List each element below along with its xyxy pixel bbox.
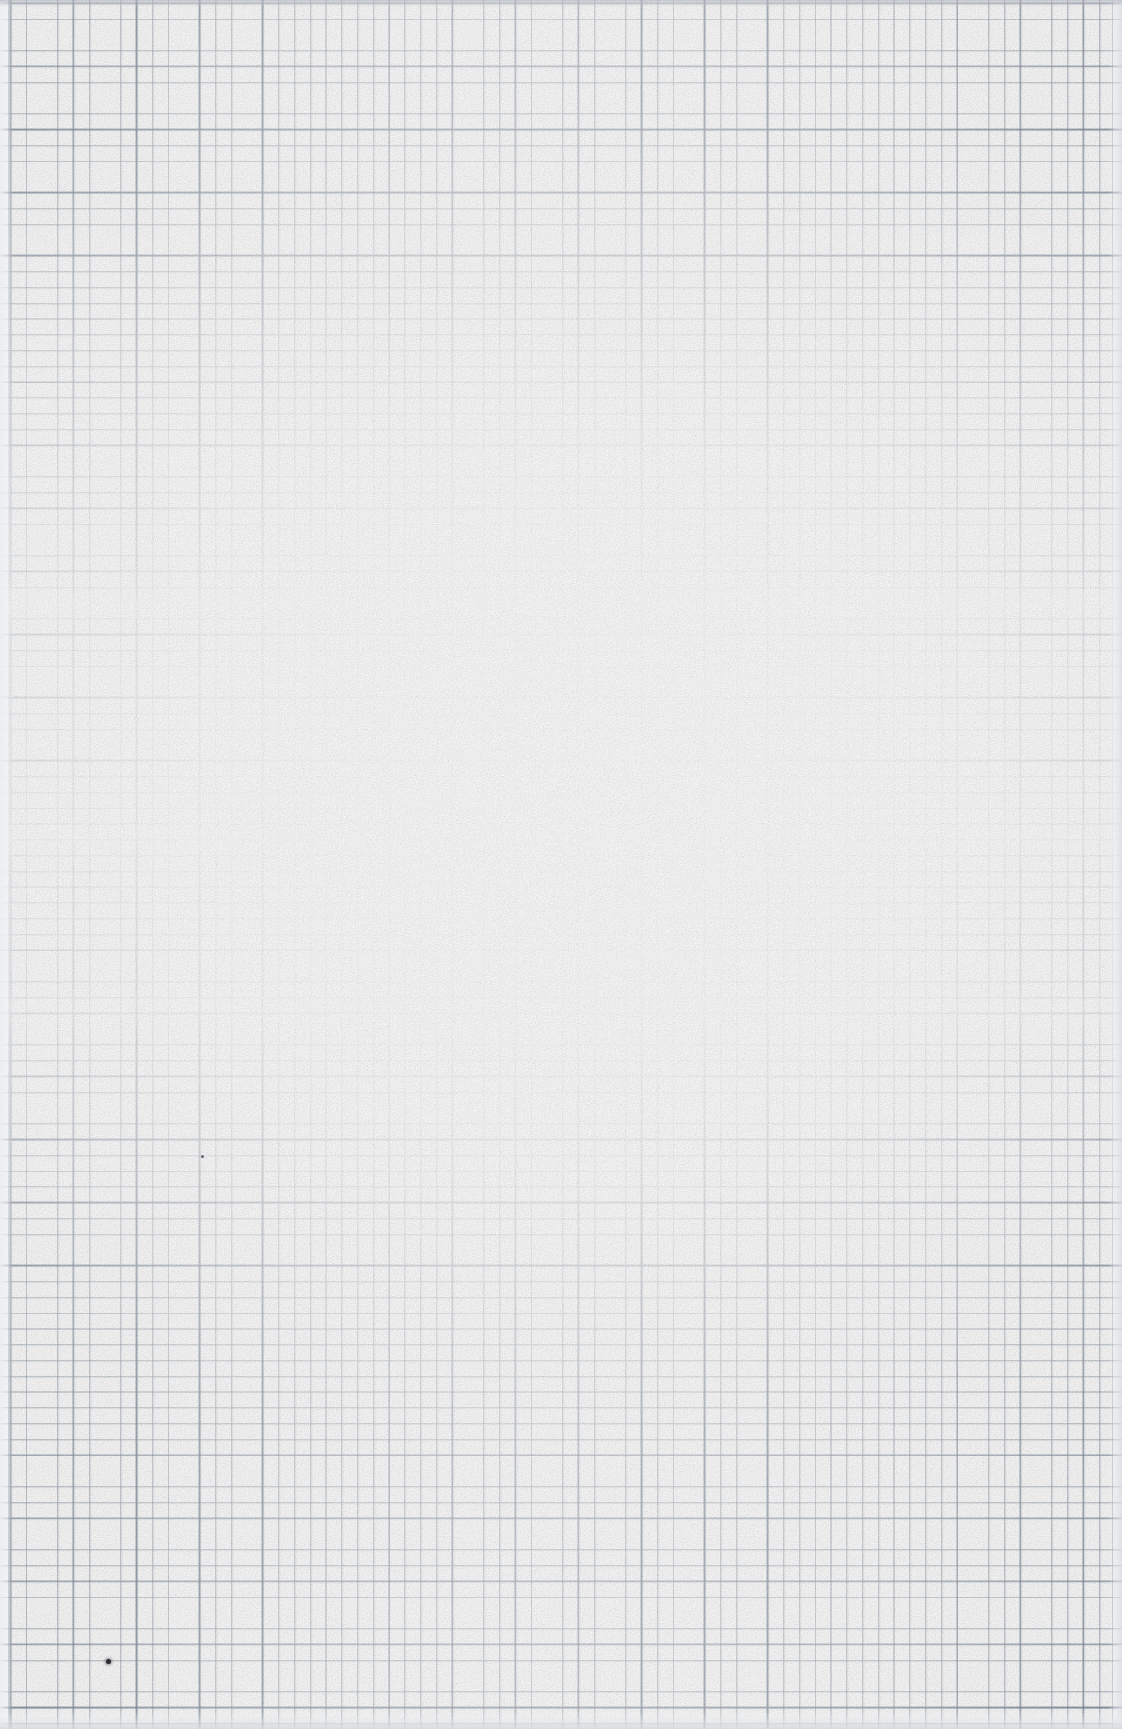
scanned-page [0,0,1122,1729]
paper-background [0,0,1122,1729]
